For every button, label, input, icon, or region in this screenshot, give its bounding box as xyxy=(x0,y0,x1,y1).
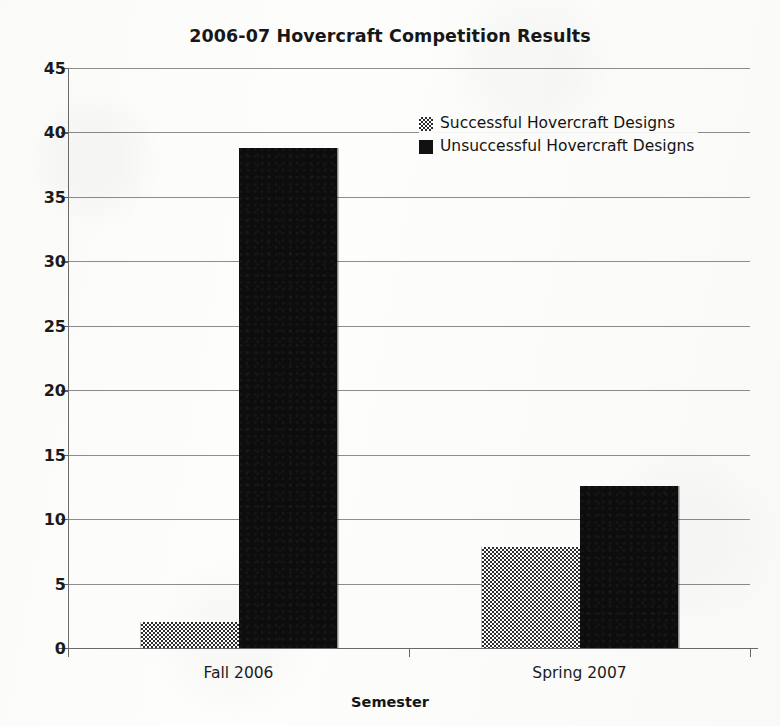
bar-spring-2007-unsuccessful xyxy=(580,486,678,648)
y-tick-label-35: 35 xyxy=(44,187,66,206)
x-tick-mark-2 xyxy=(750,648,751,657)
y-tick-label-30: 30 xyxy=(44,252,66,271)
legend-item-successful: Successful Hovercraft Designs xyxy=(419,112,694,135)
y-axis-line xyxy=(68,68,69,649)
gridline-20 xyxy=(68,390,750,391)
legend-swatch-unsuccessful-icon xyxy=(419,140,433,154)
y-tick-label-15: 15 xyxy=(44,445,66,464)
chart-title: 2006-07 Hovercraft Competition Results xyxy=(0,26,780,46)
gridline-35 xyxy=(68,197,750,198)
x-tick-mark-1 xyxy=(409,648,410,657)
gridline-30 xyxy=(68,261,750,262)
gridline-45 xyxy=(68,68,750,69)
y-tick-label-0: 0 xyxy=(55,639,66,658)
legend-label-unsuccessful: Unsuccessful Hovercraft Designs xyxy=(440,139,694,155)
x-tick-mark-0 xyxy=(68,648,69,657)
y-tick-label-20: 20 xyxy=(44,381,66,400)
bar-fall-2006-unsuccessful xyxy=(239,148,337,648)
y-tick-label-40: 40 xyxy=(44,123,66,142)
bar-spring-2007-successful xyxy=(482,547,580,648)
legend-swatch-successful-icon xyxy=(419,117,433,131)
gridline-15 xyxy=(68,455,750,456)
x-tick-label-fall-2006: Fall 2006 xyxy=(204,664,274,682)
chart-legend: Successful Hovercraft Designs Unsuccessf… xyxy=(419,110,698,161)
legend-item-unsuccessful: Unsuccessful Hovercraft Designs xyxy=(419,135,694,158)
x-axis-title: Semester xyxy=(0,694,780,710)
x-tick-label-spring-2007: Spring 2007 xyxy=(532,664,626,682)
y-tick-label-25: 25 xyxy=(44,316,66,335)
y-tick-label-45: 45 xyxy=(44,59,66,78)
y-tick-label-5: 5 xyxy=(55,574,66,593)
legend-label-successful: Successful Hovercraft Designs xyxy=(440,116,675,132)
bar-fall-2006-successful xyxy=(141,622,239,648)
x-axis-line xyxy=(58,648,758,649)
y-tick-label-10: 10 xyxy=(44,510,66,529)
gridline-25 xyxy=(68,326,750,327)
